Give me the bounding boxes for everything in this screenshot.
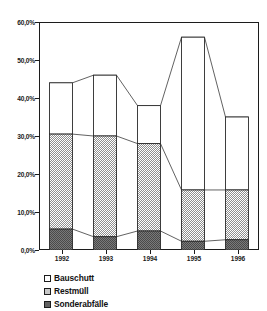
y-axis-tick-label: 50,0%	[2, 57, 35, 64]
y-axis-tick-label: 60,0%	[2, 19, 35, 26]
plot-series-canvas	[39, 22, 259, 250]
y-axis-tick-label: 40,0%	[2, 95, 35, 102]
x-axis-tick-label: 1993	[83, 255, 129, 263]
y-axis-tick-label: 20,0%	[2, 171, 35, 178]
y-axis-tick-label: 30,0%	[2, 133, 35, 140]
legend-item-bauschutt: Bauschutt	[44, 272, 244, 284]
dark-gray-square-icon	[44, 301, 51, 308]
legend-item-label: Sonderabfälle	[54, 300, 108, 309]
x-axis-tick-label: 1994	[127, 255, 173, 263]
legend-item-label: Restmüll	[54, 287, 89, 296]
x-axis-tick-mark	[150, 250, 151, 254]
x-axis-tick-label: 1995	[171, 255, 217, 263]
x-axis-tick-mark	[106, 250, 107, 254]
white-square-icon	[44, 275, 51, 282]
legend-item-restmuell: Restmüll	[44, 285, 244, 297]
stacked-bar-chart: 60,0% 50,0% 40,0% 30,0% 20,0% 10,0% 0,0%	[0, 0, 267, 311]
x-axis-tick-mark	[238, 250, 239, 254]
light-gray-square-icon	[44, 288, 51, 295]
x-axis-tick-mark	[62, 250, 63, 254]
legend-item-sonderabfaelle: Sonderabfälle	[44, 298, 244, 310]
chart-legend: Bauschutt Restmüll Sonderabfälle	[44, 272, 244, 311]
x-axis-tick-mark	[194, 250, 195, 254]
y-axis-tick-label: 10,0%	[2, 209, 35, 216]
y-axis-tick-label: 0,0%	[2, 247, 35, 254]
x-axis-tick-label: 1992	[39, 255, 85, 263]
y-axis-tick-mark	[35, 250, 39, 251]
legend-item-label: Bauschutt	[54, 274, 94, 283]
x-axis-tick-label: 1996	[215, 255, 261, 263]
